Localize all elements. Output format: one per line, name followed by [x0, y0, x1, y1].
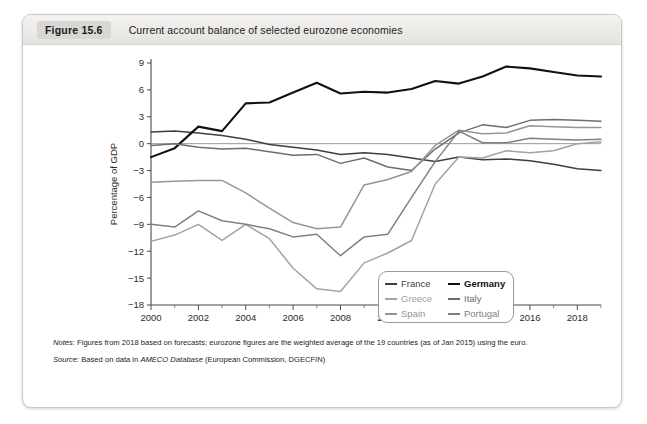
legend-swatch-spain-icon	[385, 313, 397, 315]
legend-label-portugal: Portugal	[464, 308, 499, 319]
legend-label-france: France	[401, 278, 431, 289]
svg-text:−12: −12	[128, 246, 144, 257]
legend-grid: FranceGermanyGreeceItalySpainPortugal	[385, 276, 507, 321]
legend-label-italy: Italy	[464, 293, 481, 304]
svg-text:9: 9	[139, 57, 144, 68]
legend-item-italy[interactable]: Italy	[448, 291, 507, 306]
legend-item-germany[interactable]: Germany	[448, 276, 507, 291]
svg-text:−3: −3	[133, 165, 144, 176]
legend-item-france[interactable]: France	[385, 276, 444, 291]
figure-card: Figure 15.6 Current account balance of s…	[22, 14, 622, 408]
source-pre: Based on data in	[79, 355, 140, 364]
series-line-france	[151, 131, 601, 170]
svg-text:2018: 2018	[567, 312, 588, 323]
chart-axes	[147, 59, 601, 310]
legend-swatch-france-icon	[385, 283, 397, 285]
legend-item-greece[interactable]: Greece	[385, 291, 444, 306]
source-line: Source: Based on data in AMECO Database …	[53, 354, 597, 365]
svg-text:2002: 2002	[188, 312, 209, 323]
series-line-spain	[151, 126, 601, 229]
notes-body: Figures from 2018 based on forecasts; eu…	[75, 338, 528, 347]
series-line-portugal	[151, 131, 601, 256]
figure-title: Current account balance of selected euro…	[129, 24, 403, 36]
source-post: (European Commission, DGECFIN)	[203, 355, 325, 364]
svg-text:0: 0	[139, 138, 144, 149]
svg-text:−15: −15	[128, 273, 144, 284]
legend-swatch-greece-icon	[385, 298, 397, 300]
legend-swatch-italy-icon	[448, 298, 460, 300]
svg-text:2008: 2008	[330, 312, 351, 323]
svg-text:Percentage of GDP: Percentage of GDP	[108, 143, 119, 225]
legend-item-portugal[interactable]: Portugal	[448, 306, 507, 321]
svg-text:6: 6	[139, 84, 144, 95]
legend-label-germany: Germany	[464, 278, 505, 289]
legend-label-spain: Spain	[401, 308, 425, 319]
line-chart-svg: 9630−3−6−9−12−15−18200020022004200620082…	[23, 45, 621, 335]
source-label: Source:	[53, 355, 79, 364]
svg-text:−9: −9	[133, 219, 144, 230]
legend-label-greece: Greece	[401, 293, 432, 304]
chart-plot-area: 9630−3−6−9−12−15−18200020022004200620082…	[23, 45, 621, 335]
svg-text:−18: −18	[128, 299, 144, 310]
notes-label: Notes:	[53, 338, 75, 347]
svg-text:2004: 2004	[235, 312, 256, 323]
chart-series-group	[151, 67, 601, 292]
series-line-italy	[151, 119, 601, 170]
source-database-name: AMECO Database	[140, 355, 202, 364]
svg-text:3: 3	[139, 111, 144, 122]
svg-text:2006: 2006	[283, 312, 304, 323]
svg-text:−6: −6	[133, 192, 144, 203]
series-line-greece	[151, 142, 601, 292]
legend-swatch-portugal-icon	[448, 313, 460, 315]
figure-header: Figure 15.6 Current account balance of s…	[23, 15, 621, 45]
legend-item-spain[interactable]: Spain	[385, 306, 444, 321]
figure-footnotes: Notes: Figures from 2018 based on foreca…	[23, 337, 621, 371]
figure-number-badge: Figure 15.6	[37, 21, 111, 39]
notes-line: Notes: Figures from 2018 based on foreca…	[53, 337, 597, 348]
svg-text:2016: 2016	[519, 312, 540, 323]
svg-text:2000: 2000	[140, 312, 161, 323]
legend-swatch-germany-icon	[448, 283, 460, 285]
chart-legend[interactable]: FranceGermanyGreeceItalySpainPortugal	[378, 271, 514, 323]
